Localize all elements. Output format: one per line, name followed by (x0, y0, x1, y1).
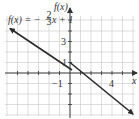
equation-prefix: f(x) = − (8, 14, 40, 26)
equation-label: f(x) = − (8, 14, 40, 26)
equation-tail: x + 1 (51, 14, 73, 25)
tick-label-y-3: 3 (61, 36, 66, 47)
tick-label-y-minus-1: −1 (52, 78, 63, 89)
x-axis-label: x (131, 75, 137, 86)
fraction-denominator: 3 (47, 16, 52, 27)
y-axis-label: f(x) (54, 1, 69, 13)
tick-label-x-4: 4 (109, 78, 114, 89)
tick-label-y-1: 1 (62, 57, 67, 68)
coordinate-plane: f(x) x f(x) = − 2 3 x + 1 3 1 −1 4 (0, 0, 139, 119)
